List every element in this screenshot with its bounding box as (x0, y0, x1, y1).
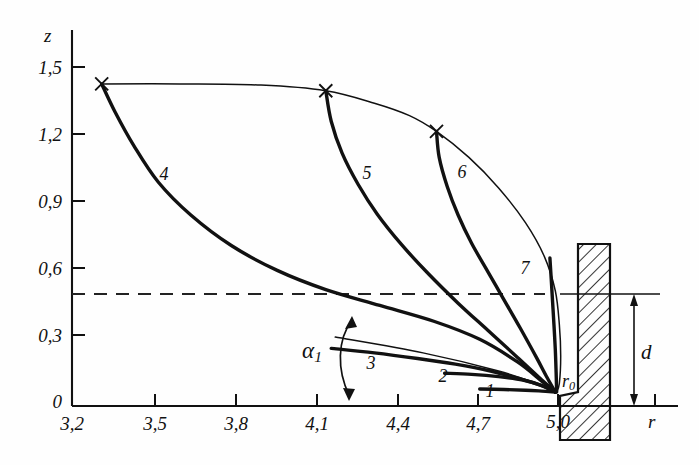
x-tick-label-4_7: 4,7 (466, 414, 490, 433)
y-tick-label-0: 0 (53, 392, 63, 411)
curve-label-6: 6 (458, 163, 467, 181)
x-tick-label-5_0: 5,0 (546, 412, 570, 431)
alpha-angle-label: α1 (302, 339, 322, 365)
curve-7 (550, 258, 557, 392)
r-subscript: 0 (569, 379, 575, 393)
x-tick-label-3_8: 3,8 (224, 414, 248, 433)
curve-label-2: 2 (439, 367, 448, 385)
y-tick-label-1_2: 1,2 (38, 125, 62, 144)
x-tick-label-3_2: 3,2 (60, 414, 84, 433)
alpha-subscript: 1 (314, 348, 322, 365)
curve-label-1: 1 (486, 382, 495, 400)
y-axis-name: z (44, 26, 51, 45)
y-tick-label-1_5: 1,5 (38, 58, 62, 77)
trajectory-curves (102, 84, 561, 392)
curve-6 (437, 131, 556, 392)
x-axis-name: r (648, 412, 655, 431)
gap-dimension-label: d (641, 342, 652, 363)
x-tick-label-4_1: 4,1 (305, 414, 329, 433)
figure-container: 1,5 1,2 0,9 0,6 0,3 0 z 3,2 3,5 3,8 4,1 … (0, 0, 699, 465)
curve-label-7: 7 (521, 259, 530, 277)
alpha-symbol: α (302, 338, 314, 363)
gap-dimension (560, 294, 672, 406)
x-tick-label-3_5: 3,5 (143, 414, 167, 433)
curve-label-5: 5 (363, 164, 372, 182)
plot-svg (0, 0, 699, 465)
alpha-angle-indicator (340, 316, 357, 401)
r-symbol: r (562, 371, 569, 391)
x-tick-label-4_4: 4,4 (386, 414, 410, 433)
y-tick-label-0_3: 0,3 (38, 326, 62, 345)
nozzle-origin-label: r0 (562, 372, 575, 393)
curve-4 (102, 84, 556, 392)
y-tick-label-0_9: 0,9 (38, 192, 62, 211)
curve-label-4: 4 (160, 165, 169, 183)
y-tick-label-0_6: 0,6 (38, 259, 62, 278)
curve-label-3: 3 (367, 354, 376, 372)
